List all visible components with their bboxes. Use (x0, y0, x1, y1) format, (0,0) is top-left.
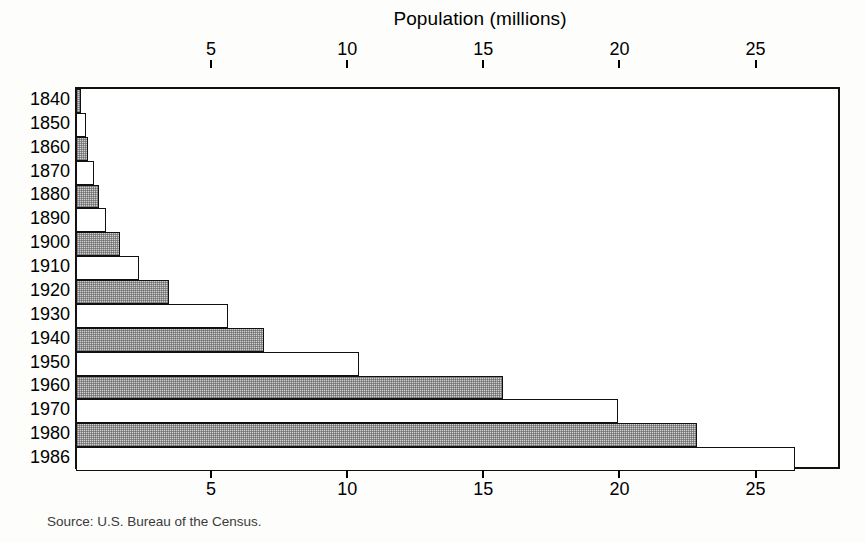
bar-row (77, 352, 838, 376)
bar-1880 (76, 185, 99, 209)
y-label-1950: 1950 (30, 353, 70, 371)
x-tick-label: 10 (337, 40, 357, 58)
bar-row (77, 161, 838, 185)
y-label-1870: 1870 (30, 162, 70, 180)
y-label-1930: 1930 (30, 305, 70, 323)
x-tick-label: 20 (609, 480, 629, 498)
bar-1986 (76, 447, 795, 471)
bar-1900 (76, 232, 120, 256)
tick-mark (482, 60, 484, 68)
tick-mark (210, 60, 212, 68)
x-tick-label: 10 (337, 480, 357, 498)
bar-1850 (76, 113, 86, 137)
y-label-1840: 1840 (30, 90, 70, 108)
bar-row (77, 185, 838, 209)
x-tick-top-5: 5 (206, 40, 216, 68)
bar-row (77, 256, 838, 280)
chart-title-text: Population (millions) (393, 8, 566, 29)
y-label-1940: 1940 (30, 329, 70, 347)
x-tick-top-25: 25 (746, 40, 766, 68)
x-tick-label: 5 (206, 40, 216, 58)
bar-1910 (76, 256, 139, 280)
y-label-1980: 1980 (30, 424, 70, 442)
x-tick-label: 5 (206, 480, 216, 498)
bar-1980 (76, 423, 697, 447)
y-label-1880: 1880 (30, 185, 70, 203)
bar-row (77, 89, 838, 113)
x-axis-bottom: 510152025 (0, 470, 866, 504)
bar-1940 (76, 328, 264, 352)
y-axis-category-labels: 1840185018601870188018901900191019201930… (0, 87, 72, 469)
y-label-1890: 1890 (30, 209, 70, 227)
bar-row (77, 208, 838, 232)
bar-1890 (76, 208, 106, 232)
x-tick-bottom-15: 15 (473, 470, 493, 498)
bar-1950 (76, 352, 359, 376)
y-label-1960: 1960 (30, 376, 70, 394)
bar-1970 (76, 399, 618, 423)
bar-row (77, 376, 838, 400)
y-label-1920: 1920 (30, 281, 70, 299)
x-tick-bottom-10: 10 (337, 470, 357, 498)
population-bar-chart: Population (millions) 510152025 18401850… (0, 0, 866, 542)
bar-row (77, 447, 838, 471)
x-tick-bottom-20: 20 (609, 470, 629, 498)
y-label-1970: 1970 (30, 400, 70, 418)
tick-mark (618, 60, 620, 68)
y-label-1860: 1860 (30, 138, 70, 156)
bar-row (77, 423, 838, 447)
x-tick-bottom-25: 25 (746, 470, 766, 498)
bar-row (77, 304, 838, 328)
x-tick-top-20: 20 (609, 40, 629, 68)
bar-1960 (76, 376, 503, 400)
bar-1860 (76, 137, 88, 161)
x-tick-label: 15 (473, 40, 493, 58)
chart-title: Population (millions) (0, 8, 866, 30)
bar-row (77, 399, 838, 423)
x-tick-label: 15 (473, 480, 493, 498)
tick-mark (210, 470, 212, 478)
bar-1840 (76, 89, 81, 113)
y-label-1850: 1850 (30, 114, 70, 132)
bar-series (77, 89, 838, 467)
x-tick-top-15: 15 (473, 40, 493, 68)
tick-mark (755, 470, 757, 478)
bar-row (77, 280, 838, 304)
bar-1920 (76, 280, 169, 304)
tick-mark (618, 470, 620, 478)
x-tick-top-10: 10 (337, 40, 357, 68)
plot-area (75, 87, 840, 469)
bar-1870 (76, 161, 94, 185)
tick-mark (346, 470, 348, 478)
bar-row (77, 137, 838, 161)
tick-mark (482, 470, 484, 478)
tick-mark (755, 60, 757, 68)
bar-row (77, 328, 838, 352)
y-label-1900: 1900 (30, 233, 70, 251)
x-tick-label: 20 (609, 40, 629, 58)
tick-mark (346, 60, 348, 68)
bar-row (77, 113, 838, 137)
x-axis-top: 510152025 (0, 40, 866, 72)
x-tick-label: 25 (746, 480, 766, 498)
x-tick-label: 25 (746, 40, 766, 58)
y-label-1910: 1910 (30, 257, 70, 275)
source-note: Source: U.S. Bureau of the Census. (47, 514, 262, 529)
x-tick-bottom-5: 5 (206, 470, 216, 498)
bar-row (77, 232, 838, 256)
y-label-1986: 1986 (30, 448, 70, 466)
bar-1930 (76, 304, 228, 328)
